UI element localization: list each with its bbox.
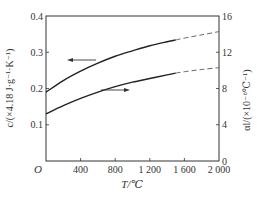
x-tick-label: 400 <box>73 164 88 175</box>
x-tick-label: 1 600 <box>173 164 196 175</box>
y-right-tick-label: 12 <box>222 47 232 58</box>
x-tick-label: 1 200 <box>139 164 162 175</box>
chart: O4008001 2001 6002 000 0.10.20.30.4 0481… <box>0 0 258 198</box>
series-1-solid-line <box>46 40 176 92</box>
y-right-axis-ticks: 0481216 <box>216 11 232 167</box>
y-right-tick-label: 16 <box>222 11 232 22</box>
y-left-tick-label: 0.3 <box>31 47 44 58</box>
series-lines <box>46 32 219 114</box>
y-left-tick-label: 0.1 <box>31 119 44 130</box>
plot-border <box>46 16 219 161</box>
x-axis-label: T/℃ <box>121 178 143 190</box>
x-tick-label: 800 <box>108 164 123 175</box>
series-1-dashed-line <box>176 32 219 40</box>
x-tick-label: O <box>34 163 42 175</box>
series-2-dashed-line <box>176 68 219 73</box>
left-arrow-head-icon <box>67 58 73 62</box>
right-arrow-head-icon <box>124 88 130 92</box>
y-right-axis-label: αl/(×10⁻⁶℃⁻¹) <box>241 69 253 130</box>
y-left-axis-label: c/(×4.18 J·g⁻¹·K⁻¹) <box>4 49 16 128</box>
y-right-tick-label: 0 <box>222 156 227 167</box>
y-left-tick-label: 0.2 <box>31 83 44 94</box>
y-left-tick-label: 0.4 <box>31 11 44 22</box>
plot-frame <box>46 16 219 161</box>
y-right-tick-label: 8 <box>222 83 227 94</box>
y-right-tick-label: 4 <box>222 119 227 130</box>
